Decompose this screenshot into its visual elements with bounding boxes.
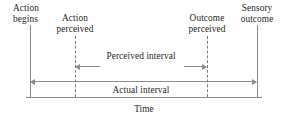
label-sensory-outcome-line1: Sensory: [241, 3, 274, 14]
perceived-interval-label-backdrop: [100, 61, 184, 70]
perceived-interval-label: Perceived interval: [106, 51, 175, 62]
label-action-begins: Action begins: [13, 3, 39, 25]
perceived-interval-arrowhead-left: [75, 64, 80, 70]
label-action-perceived-line2: perceived: [56, 24, 93, 35]
timeline-diagram: Action begins Action perceived Outcome p…: [0, 0, 290, 122]
time-axis-line: [26, 97, 262, 98]
marker-line-sensory-outcome: [257, 25, 258, 98]
label-action-begins-line1: Action: [13, 3, 39, 14]
actual-interval-arrowhead-right: [252, 79, 257, 85]
actual-interval-arrow-line: [32, 81, 256, 82]
label-action-perceived: Action perceived: [56, 13, 93, 35]
marker-line-outcome-perceived: [207, 36, 208, 97]
label-action-begins-line2: begins: [13, 14, 39, 25]
label-outcome-perceived-line2: perceived: [188, 24, 225, 35]
perceived-interval-arrowhead-right: [202, 64, 207, 70]
label-outcome-perceived-line1: Outcome: [188, 13, 225, 24]
time-axis-label: Time: [134, 104, 154, 115]
label-sensory-outcome: Sensory outcome: [241, 3, 274, 25]
actual-interval-arrowhead-left: [30, 79, 35, 85]
actual-interval-label: Actual interval: [113, 85, 170, 96]
marker-line-action-begins: [30, 25, 31, 98]
label-action-perceived-line1: Action: [56, 13, 93, 24]
label-outcome-perceived: Outcome perceived: [188, 13, 225, 35]
label-sensory-outcome-line2: outcome: [241, 14, 274, 25]
